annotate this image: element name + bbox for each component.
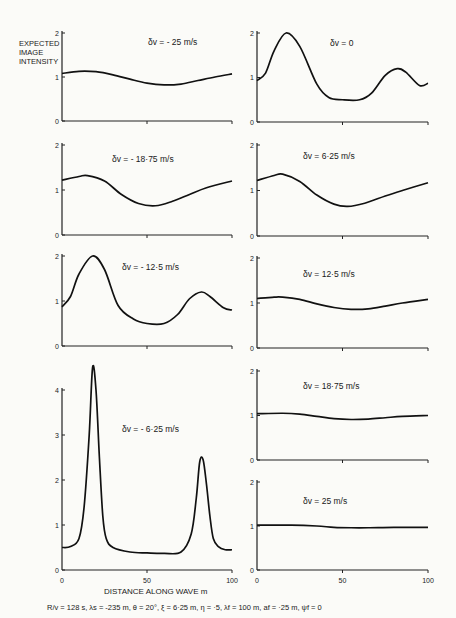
- panel-title: δv = 18·75 m/s: [303, 381, 359, 391]
- y-tick-label: 2: [250, 142, 254, 149]
- y-tick-label: 1: [250, 523, 254, 530]
- panel-title: δv = 6·25 m/s: [303, 151, 355, 161]
- intensity-curve: [62, 366, 232, 554]
- chart-panel-p8: 012δv = 18·75 m/s: [250, 368, 428, 464]
- y-tick-label: 1: [55, 522, 59, 529]
- y-tick-label: 0: [250, 457, 254, 464]
- y-tick-label: 2: [55, 142, 59, 149]
- x-tick-label: 50: [339, 577, 347, 584]
- y-tick-label: 1: [55, 187, 59, 194]
- panel-title: δv = - 25 m/s: [148, 37, 197, 47]
- chart-panel-p5: 012δv = - 12·5 m/s: [55, 253, 232, 350]
- y-tick-label: 2: [250, 368, 254, 375]
- intensity-curve: [257, 297, 428, 309]
- chart-panel-p1: 012δv = - 25 m/s: [55, 30, 232, 125]
- y-tick-label: 1: [55, 298, 59, 305]
- y-axis-label: EXPECTEDIMAGEINTENSITY: [19, 39, 60, 66]
- y-tick-label: 1: [250, 412, 254, 419]
- y-tick-label: 2: [250, 30, 254, 37]
- chart-panel-p7: 01234δv = - 6·25 m/s: [55, 366, 232, 574]
- y-tick-label: 0: [55, 343, 59, 350]
- intensity-curve: [62, 71, 232, 85]
- y-tick-label: 1: [55, 74, 59, 81]
- y-tick-label: 0: [250, 567, 254, 574]
- panel-title: δv = - 12·5 m/s: [122, 262, 179, 272]
- intensity-curve: [62, 175, 232, 206]
- y-tick-label: 1: [250, 187, 254, 194]
- y-tick-label: 0: [55, 567, 59, 574]
- y-tick-label: 4: [55, 387, 59, 394]
- x-tick-label: 100: [422, 577, 434, 584]
- x-tick-label: 0: [60, 577, 64, 584]
- y-tick-label: 2: [55, 477, 59, 484]
- svg-text:EXPECTED: EXPECTED: [19, 39, 60, 48]
- y-tick-label: 2: [250, 255, 254, 262]
- intensity-curve: [257, 174, 428, 207]
- y-tick-label: 0: [250, 345, 254, 352]
- panel-title: δv = 0: [330, 38, 354, 48]
- svg-text:INTENSITY: INTENSITY: [19, 57, 58, 66]
- y-tick-label: 2: [250, 479, 254, 486]
- x-tick-label: 100: [226, 577, 238, 584]
- panel-title: δv = 25 m/s: [303, 496, 347, 506]
- intensity-curve: [257, 525, 428, 528]
- x-tick-label: 50: [143, 577, 151, 584]
- chart-panel-p9: 012δv = 25 m/s: [250, 479, 428, 574]
- panel-title: δv = 12·5 m/s: [303, 269, 355, 279]
- x-tick-label: 0: [255, 577, 259, 584]
- panel-title: δv = - 18·75 m/s: [112, 154, 174, 164]
- intensity-curve: [257, 413, 428, 419]
- panel-title: δv = - 6·25 m/s: [122, 424, 179, 434]
- y-tick-label: 0: [250, 119, 254, 126]
- chart-panel-p2: 012δv = 0: [250, 30, 428, 126]
- y-tick-label: 0: [55, 232, 59, 239]
- y-tick-label: 0: [55, 118, 59, 125]
- chart-panel-p3: 012δv = - 18·75 m/s: [55, 142, 232, 239]
- figure-caption: R/v = 128 s, λs = -235 m, θ = 20°, ξ = 6…: [47, 603, 322, 612]
- y-tick-label: 1: [250, 74, 254, 81]
- figure: 012δv = - 25 m/s012δv = 0012δv = - 18·75…: [0, 0, 456, 618]
- x-axis-label: DISTANCE ALONG WAVE m: [104, 587, 208, 596]
- y-tick-label: 2: [55, 253, 59, 260]
- y-tick-label: 2: [55, 30, 59, 37]
- y-tick-label: 3: [55, 432, 59, 439]
- chart-panel-p6: 012δv = 12·5 m/s: [250, 255, 428, 352]
- svg-text:IMAGE: IMAGE: [19, 48, 43, 57]
- chart-panel-p4: 012δv = 6·25 m/s: [250, 142, 428, 240]
- y-tick-label: 0: [250, 233, 254, 240]
- y-tick-label: 1: [250, 300, 254, 307]
